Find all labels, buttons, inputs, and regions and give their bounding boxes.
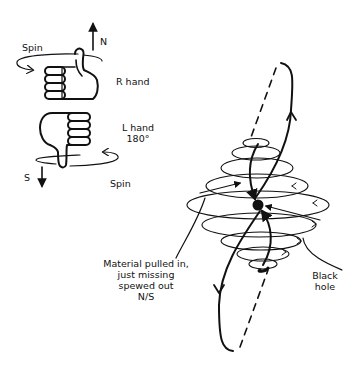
material-label: Material pulled in, just missing spewed …	[98, 258, 194, 302]
left-hand-label: L hand 180°	[118, 122, 158, 144]
black-hole-label-line1: Black	[300, 270, 350, 281]
south-label: S	[24, 172, 30, 183]
material-label-line4: N/S	[98, 291, 194, 302]
material-label-line2: just missing	[98, 269, 194, 280]
material-label-line3: spewed out	[98, 280, 194, 291]
material-label-line1: Material pulled in,	[98, 258, 194, 269]
left-hand-label-line1: L hand	[118, 122, 158, 133]
left-hand-label-line2: 180°	[118, 133, 158, 144]
spin-bottom-label: Spin	[110, 178, 131, 189]
spin-top-label: Spin	[22, 42, 43, 53]
left-hand-thumb-down-icon	[40, 113, 90, 167]
spin-arrow-icon	[36, 152, 118, 166]
right-hand-label: R hand	[116, 76, 150, 87]
north-label: N	[100, 36, 107, 47]
diagram-canvas	[0, 0, 359, 371]
black-hole-label: Black hole	[300, 270, 350, 292]
black-hole-label-line2: hole	[300, 281, 350, 292]
